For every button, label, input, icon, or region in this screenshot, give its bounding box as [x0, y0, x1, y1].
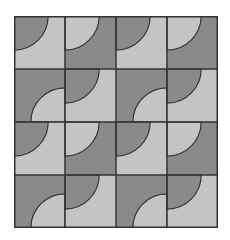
tile-r2-c2	[116, 122, 167, 175]
tile-pattern-grid	[14, 16, 218, 228]
tile-r0-c0	[14, 16, 65, 69]
tile-r2-c3	[167, 122, 218, 175]
tile-r2-c1	[65, 122, 116, 175]
tile-r3-c3	[167, 175, 218, 228]
tile-r0-c2	[116, 16, 167, 69]
tile-r3-c0	[14, 175, 65, 228]
tile-r1-c3	[167, 69, 218, 122]
tile-pattern-svg	[14, 16, 218, 228]
tile-r0-c1	[65, 16, 116, 69]
tile-r1-c0	[14, 69, 65, 122]
tile-r1-c2	[116, 69, 167, 122]
tile-r3-c2	[116, 175, 167, 228]
tile-r3-c1	[65, 175, 116, 228]
tile-r2-c0	[14, 122, 65, 175]
tile-r0-c3	[167, 16, 218, 69]
tile-r1-c1	[65, 69, 116, 122]
